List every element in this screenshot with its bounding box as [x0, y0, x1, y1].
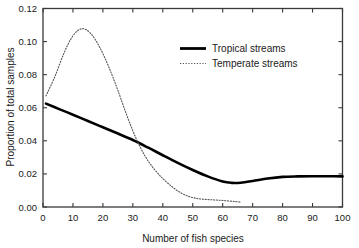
y-tick-label: 0.10: [19, 36, 38, 47]
legend-label-temperate: Temperate streams: [212, 58, 298, 69]
y-tick-label: 0.00: [19, 202, 38, 213]
x-tick-label: 90: [307, 212, 318, 223]
y-axis-title: Proportion of total samples: [5, 48, 16, 167]
line-chart: 0102030405060708090100 0.000.020.040.060…: [0, 0, 359, 248]
x-tick-label: 70: [247, 212, 258, 223]
x-tick-label: 60: [217, 212, 228, 223]
x-tick-label: 100: [335, 212, 351, 223]
x-tick-label: 80: [277, 212, 288, 223]
legend-label-tropical: Tropical streams: [212, 43, 286, 54]
x-tick-label: 50: [187, 212, 198, 223]
x-tick-label: 40: [158, 212, 169, 223]
y-tick-label: 0.02: [19, 168, 38, 179]
y-tick-label: 0.12: [19, 3, 38, 14]
chart-background: [0, 0, 359, 248]
chart-figure: 0102030405060708090100 0.000.020.040.060…: [0, 0, 359, 248]
y-tick-label: 0.08: [19, 69, 38, 80]
x-tick-label: 0: [40, 212, 45, 223]
x-axis-title: Number of fish species: [142, 233, 244, 244]
x-tick-label: 20: [98, 212, 109, 223]
y-tick-label: 0.04: [19, 135, 38, 146]
x-tick-label: 30: [128, 212, 139, 223]
x-tick-label: 10: [68, 212, 79, 223]
y-tick-label: 0.06: [19, 102, 38, 113]
